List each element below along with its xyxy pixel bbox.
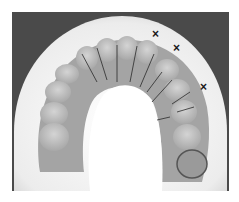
x-marker-2: ×: [173, 41, 180, 55]
dental-cast-illustration: × × ×: [12, 12, 229, 191]
x-marker-1: ×: [152, 27, 159, 41]
dental-cast-photo: × × ×: [12, 12, 229, 191]
x-marker-3: ×: [200, 80, 207, 94]
